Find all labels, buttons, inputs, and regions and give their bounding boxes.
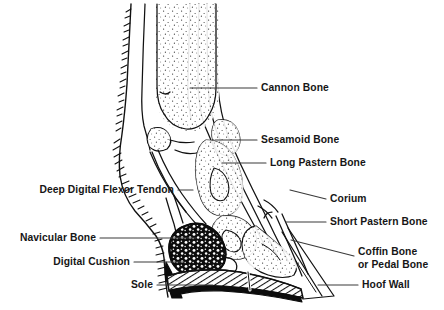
label-short-pastern-bone: Short Pastern Bone [330,216,428,229]
coronary-band [258,200,278,218]
label-navicular-bone: Navicular Bone [0,232,96,245]
label-coffin-bone-line1: Coffin Bone [358,246,417,257]
label-hoof-wall: Hoof Wall [362,279,410,292]
leader-coffin-bone [291,240,354,256]
label-deep-digital-flexor-tendon: Deep Digital Flexor Tendon [0,184,174,197]
label-cannon-bone: Cannon Bone [261,82,329,95]
long-pastern-bone [190,134,250,224]
label-sole: Sole [0,279,153,292]
cannon-bone [150,0,224,136]
label-coffin-bone: Coffin Bone or Pedal Bone [358,246,444,271]
hoof-anatomy-figure: Cannon Bone Sesamoid Bone Long Pastern B… [0,0,444,310]
label-digital-cushion: Digital Cushion [0,256,130,269]
label-corium: Corium [330,193,367,206]
label-coffin-bone-line2: or Pedal Bone [358,259,428,270]
label-long-pastern-bone: Long Pastern Bone [270,157,366,170]
leader-corium [290,190,326,199]
label-sesamoid-bone: Sesamoid Bone [261,134,339,147]
sole [167,270,303,302]
